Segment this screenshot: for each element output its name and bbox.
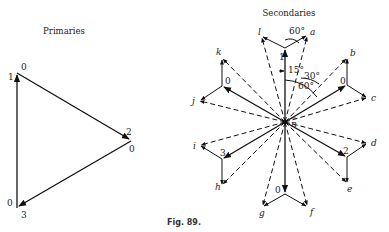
resultant-k — [223, 59, 285, 122]
vertex-top-label-1: 1 — [8, 72, 14, 82]
resultant-f — [285, 122, 307, 205]
vertex-bottom-label-0: 0 — [7, 198, 13, 208]
letter-k: k — [216, 47, 221, 57]
primaries-diagram: Primaries 1 0 2 0 0 3 — [7, 26, 135, 220]
primaries-title: Primaries — [43, 26, 85, 36]
angle-label-60-mid: 60° — [298, 81, 314, 91]
segment-j — [201, 86, 222, 100]
neutral-point — [283, 120, 287, 124]
letter-j: j — [190, 96, 195, 106]
letter-a: a — [310, 27, 315, 37]
angle-arc-60-top — [285, 39, 299, 43]
letter-b: b — [350, 48, 356, 58]
segment-g — [264, 194, 285, 206]
primary-phasor-2-3 — [19, 141, 131, 206]
resultant-j — [200, 101, 285, 122]
primary-phasor-1-2 — [17, 73, 129, 139]
phase-label-1: 1 — [279, 52, 285, 62]
letter-g: g — [259, 208, 265, 218]
letter-c: c — [371, 93, 376, 103]
angle-label-30: 30° — [304, 71, 320, 81]
resultant-g — [263, 122, 285, 205]
resultant-i — [201, 122, 285, 145]
segment-i — [201, 146, 222, 159]
phase-label-0-bottom: 0 — [275, 185, 281, 195]
secondaries-title: Secondaries — [263, 8, 316, 18]
segment-c — [347, 85, 366, 97]
segment-d — [347, 144, 366, 157]
phasor-0-upper-left — [224, 87, 285, 122]
letter-i: i — [193, 141, 196, 151]
letter-f: f — [309, 207, 315, 217]
segment-a — [285, 36, 306, 48]
vertex-right-label-2: 2 — [126, 127, 132, 137]
segment-f — [285, 194, 306, 206]
letter-e: e — [347, 184, 352, 194]
vertex-top-label-0: 0 — [21, 62, 27, 72]
angle-label-15: 15° — [288, 65, 304, 75]
phase-label-2: 2 — [343, 146, 349, 156]
secondaries-diagram: Secondaries n — [190, 8, 377, 218]
figure-caption: Fig. 89. — [167, 218, 201, 227]
figure-canvas: Primaries 1 0 2 0 0 3 Secondaries — [0, 0, 389, 232]
resultant-l — [262, 38, 285, 122]
letter-l: l — [258, 27, 261, 37]
angle-label-60-top: 60° — [289, 26, 305, 36]
vertex-right-label-0: 0 — [129, 144, 135, 154]
neutral-label: n — [291, 119, 297, 129]
phase-label-0-upper-right: 0 — [340, 76, 346, 86]
vertex-bottom-label-3: 3 — [21, 210, 27, 220]
segment-l — [263, 37, 285, 48]
phase-label-0-upper-left: 0 — [225, 76, 231, 86]
letter-d: d — [371, 138, 377, 148]
phase-label-3: 3 — [220, 148, 226, 158]
letter-h: h — [215, 182, 221, 192]
resultant-d — [285, 122, 366, 143]
